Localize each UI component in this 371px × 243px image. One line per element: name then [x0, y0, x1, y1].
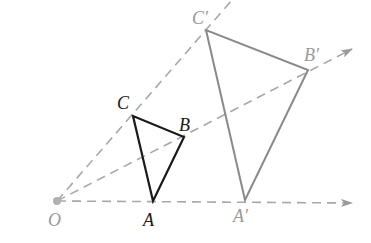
label-c-prime: C′ — [192, 8, 209, 28]
label-a-prime: A′ — [232, 206, 249, 226]
label-o: O — [48, 210, 61, 230]
label-b: B — [179, 115, 190, 135]
label-a: A — [142, 210, 155, 230]
ray-oa — [57, 201, 352, 203]
center-point-o — [53, 197, 61, 205]
label-c: C — [117, 93, 130, 113]
label-b-prime: B′ — [304, 45, 320, 65]
dilation-diagram: O A B C A′ B′ C′ — [0, 0, 371, 243]
image-triangle — [206, 30, 308, 200]
